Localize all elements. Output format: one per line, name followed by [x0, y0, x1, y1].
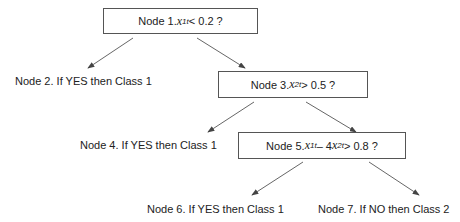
- node-5-decision-box: Node 5. x1t – 4x2t > 0.8 ?: [238, 132, 406, 159]
- node-5-condition: > 0.8 ?: [344, 140, 378, 152]
- edge-5-7: [369, 162, 419, 195]
- edge-5-6: [252, 162, 303, 195]
- node-7-leaf: Node 7. If NO then Class 2: [318, 203, 449, 215]
- edge-1-3: [197, 38, 245, 68]
- node-1-condition: < 0.2 ?: [189, 15, 223, 27]
- node-5-sub: 1t: [310, 141, 317, 150]
- edge-3-4: [208, 102, 254, 132]
- node-1-prefix: Node 1.: [138, 15, 177, 27]
- node-6-leaf: Node 6. If YES then Class 1: [147, 203, 284, 215]
- node-5-prefix: Node 5.: [266, 140, 305, 152]
- node-1-decision-box: Node 1. x1t < 0.2 ?: [103, 8, 258, 34]
- node-4-leaf: Node 4. If YES then Class 1: [80, 139, 217, 151]
- node-3-decision-box: Node 3. x2t > 0.5 ?: [218, 71, 368, 98]
- edge-3-5: [306, 102, 356, 132]
- node-3-sub: 2t: [295, 80, 302, 89]
- node-1-sub: 1t: [182, 17, 189, 26]
- node-5-sub2: 2t: [337, 141, 344, 150]
- node-3-condition: > 0.5 ?: [301, 79, 335, 91]
- edge-1-2: [88, 38, 133, 68]
- node-5-mid: – 4: [317, 140, 332, 152]
- node-2-leaf: Node 2. If YES then Class 1: [15, 75, 152, 87]
- node-3-prefix: Node 3.: [251, 79, 290, 91]
